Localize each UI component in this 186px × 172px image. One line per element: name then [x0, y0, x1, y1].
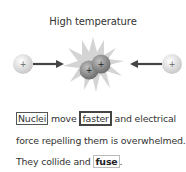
svg-text:+: +	[169, 60, 176, 69]
left-arrow-icon	[130, 60, 162, 68]
left-nucleus: +	[13, 54, 33, 74]
right-nucleus: +	[162, 54, 182, 74]
caption-text-1: move	[48, 113, 79, 124]
term-nuclei: Nuclei	[16, 112, 48, 125]
term-fuse: fuse	[93, 155, 119, 168]
svg-text:+: +	[20, 60, 27, 69]
term-faster: faster	[79, 111, 111, 126]
fusion-diagram: + + + +	[0, 0, 186, 100]
caption-text-3: .	[120, 156, 123, 167]
svg-text:+: +	[98, 60, 105, 69]
svg-text:+: +	[86, 66, 93, 75]
caption: Nuclei move faster and electrical force …	[16, 108, 186, 172]
right-arrow-icon	[33, 60, 64, 68]
